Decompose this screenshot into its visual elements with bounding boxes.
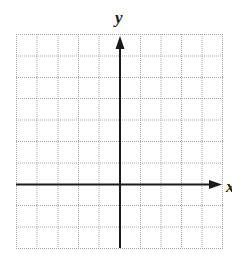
coordinate-grid [0, 0, 232, 259]
x-axis-arrow-icon [209, 180, 222, 189]
y-axis-label: y [115, 9, 123, 26]
x-axis-label: x [226, 178, 232, 195]
y-axis-arrow-icon [116, 36, 125, 49]
coordinate-plane: y x [0, 0, 232, 259]
